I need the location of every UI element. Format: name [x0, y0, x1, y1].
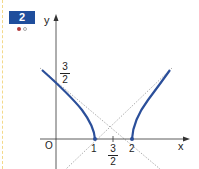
x-tick-3-2: 32: [108, 144, 118, 167]
y-axis-arrow-icon: [54, 14, 59, 21]
curve-right-branch: [132, 70, 170, 139]
x-tick-1: 1: [91, 143, 97, 154]
y-tick-3-2: 32: [60, 62, 70, 85]
x-axis-arrow-icon: [183, 137, 190, 142]
x-axis-label: x: [178, 140, 184, 152]
x-tick-2: 2: [129, 143, 135, 154]
asymptote-increasing: [66, 68, 172, 169]
y-axis-label: y: [44, 14, 50, 26]
asymptote-decreasing: [40, 68, 160, 169]
origin-label: O: [45, 140, 53, 151]
graph: [0, 0, 199, 169]
